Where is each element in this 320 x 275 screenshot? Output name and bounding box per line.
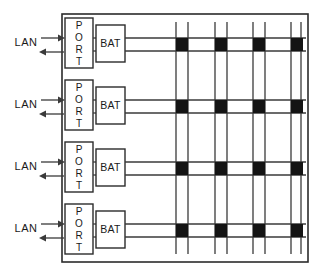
lan-arrow-out-1 xyxy=(39,49,64,56)
port-letter-t-4: T xyxy=(76,242,82,253)
lan-label-4: LAN xyxy=(15,222,38,234)
port-row-4: LAN P O R T BAT xyxy=(15,204,306,254)
crosspoint-r4-c4 xyxy=(291,224,303,237)
port-row-2: LAN P O R T BAT xyxy=(15,80,306,130)
crosspoint-r2-c2 xyxy=(215,100,227,113)
port-row-1: LAN P O R T BAT xyxy=(15,18,306,68)
lan-label-2: LAN xyxy=(15,98,38,110)
crosspoint-r2-c1 xyxy=(176,100,188,113)
crossbar-column-3 xyxy=(253,22,265,254)
port-letter-t-1: T xyxy=(76,56,82,67)
crosspoint-r2-c4 xyxy=(291,100,303,113)
crosspoint-r3-c4 xyxy=(291,162,303,175)
crosspoint-r4-c1 xyxy=(176,224,188,237)
port-letter-p-1: P xyxy=(76,20,83,31)
crosspoint-r1-c2 xyxy=(215,38,227,51)
crossbar-column-4 xyxy=(291,22,301,254)
port-row-3: LAN P O R T BAT xyxy=(15,142,306,192)
lan-arrow-out-3 xyxy=(39,173,64,180)
crosspoint-r1-c4 xyxy=(291,38,303,51)
port-letter-o-1: O xyxy=(75,32,83,43)
crosspoint-r1-c3 xyxy=(253,38,265,51)
lan-label-3: LAN xyxy=(15,160,38,172)
port-letter-p-3: P xyxy=(76,144,83,155)
crosspoint-r3-c2 xyxy=(215,162,227,175)
port-letter-r-2: R xyxy=(75,106,82,117)
lan-arrow-out-2 xyxy=(39,111,64,118)
port-letter-p-4: P xyxy=(76,206,83,217)
crosspoint-r3-c1 xyxy=(176,162,188,175)
lan-arrow-out-4 xyxy=(39,235,64,242)
lan-label-1: LAN xyxy=(15,36,38,48)
port-letter-o-2: O xyxy=(75,94,83,105)
bat-label-3: BAT xyxy=(100,161,121,173)
port-letter-t-3: T xyxy=(76,180,82,191)
crosspoint-r4-c3 xyxy=(253,224,265,237)
bat-label-2: BAT xyxy=(100,99,121,111)
diagram-svg: LAN P O R T BAT xyxy=(0,0,320,275)
crossbar-column-1 xyxy=(176,22,188,254)
port-letter-t-2: T xyxy=(76,118,82,129)
port-letter-p-2: P xyxy=(76,82,83,93)
crosspoint-r3-c3 xyxy=(253,162,265,175)
port-letter-r-3: R xyxy=(75,168,82,179)
crosspoint-r2-c3 xyxy=(253,100,265,113)
crosspoint-r1-c1 xyxy=(176,38,188,51)
crosspoint-r4-c2 xyxy=(215,224,227,237)
port-letter-o-4: O xyxy=(75,218,83,229)
switch-architecture-diagram: LAN P O R T BAT xyxy=(0,0,320,275)
bat-label-4: BAT xyxy=(100,223,121,235)
crossbar-column-2 xyxy=(215,22,227,254)
crossbar-columns xyxy=(176,22,301,254)
bat-label-1: BAT xyxy=(100,37,121,49)
port-letter-r-1: R xyxy=(75,44,82,55)
port-letter-o-3: O xyxy=(75,156,83,167)
port-letter-r-4: R xyxy=(75,230,82,241)
